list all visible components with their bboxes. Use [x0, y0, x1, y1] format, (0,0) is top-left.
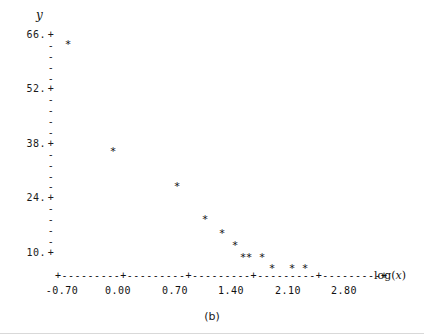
data-point: *: [245, 252, 253, 263]
y-axis-label: y: [36, 9, 43, 21]
data-point: *: [258, 252, 266, 263]
y-axis-minor-tick: -: [8, 161, 56, 172]
x-tick-label: 0.70: [162, 285, 188, 297]
y-axis-major-tick: 10.+: [8, 248, 56, 259]
x-tick-label: 2.10: [275, 285, 301, 297]
data-point: *: [218, 228, 226, 239]
data-point: *: [231, 240, 239, 251]
y-tick-label: 10.: [26, 248, 46, 259]
data-point: *: [173, 181, 181, 192]
figure-panel: y 66.+ - - - -52.+ - - - -38.+ - - - -24…: [0, 0, 424, 336]
x-axis-label: log(x): [374, 270, 406, 282]
x-tick-labels: -0.700.000.701.402.102.80: [0, 285, 424, 299]
data-point: *: [201, 214, 209, 225]
x-axis-label-suffix: ): [402, 269, 406, 282]
y-tick-glyph: +: [46, 248, 56, 259]
data-point: *: [64, 39, 72, 50]
figure-caption: (b): [0, 310, 424, 323]
x-tick-label: 1.40: [218, 285, 244, 297]
page-divider: [0, 333, 424, 334]
y-axis-minor-tick: -: [8, 63, 56, 74]
y-axis: 66.+ - - - -52.+ - - - -38.+ - - - -24.+…: [8, 30, 56, 259]
x-tick-label: -0.70: [46, 285, 79, 297]
data-point: *: [109, 146, 117, 157]
x-tick-label: 0.00: [105, 285, 131, 297]
data-point: *: [239, 252, 247, 263]
y-minor-tick-glyph: -: [46, 161, 56, 172]
y-minor-tick-glyph: -: [46, 63, 56, 74]
x-axis-label-prefix: log(: [374, 269, 395, 282]
x-tick-label: 2.80: [331, 285, 357, 297]
x-axis-line: +---------+---------+---------+---------…: [55, 270, 388, 282]
